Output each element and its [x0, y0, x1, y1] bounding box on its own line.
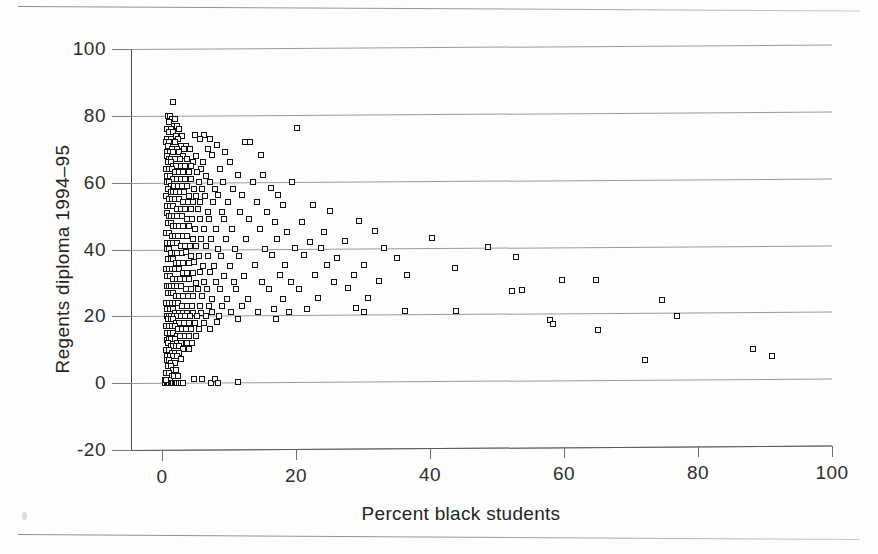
- data-point: [593, 277, 599, 283]
- data-point: [199, 186, 205, 192]
- data-point: [345, 285, 351, 291]
- data-point: [196, 179, 202, 185]
- data-point: [205, 253, 211, 259]
- data-point: [288, 279, 294, 285]
- data-point: [173, 367, 179, 373]
- data-point: [232, 246, 238, 252]
- data-point: [559, 277, 565, 283]
- data-point: [750, 346, 756, 352]
- data-point: [190, 236, 196, 242]
- data-point: [187, 146, 193, 152]
- data-point: [207, 269, 213, 275]
- data-point: [394, 255, 400, 261]
- data-point: [188, 176, 194, 182]
- data-point: [235, 316, 241, 322]
- data-point: [203, 243, 209, 249]
- data-point: [214, 319, 220, 325]
- data-point: [361, 262, 367, 268]
- data-point: [452, 265, 458, 271]
- data-point: [243, 236, 249, 242]
- data-point: [659, 297, 665, 303]
- data-point: [280, 296, 286, 302]
- data-point: [172, 116, 178, 122]
- data-point: [356, 218, 362, 224]
- data-point: [186, 169, 192, 175]
- data-point: [201, 279, 207, 285]
- data-point: [231, 279, 237, 285]
- data-point: [254, 199, 260, 205]
- data-point: [201, 320, 207, 326]
- data-point: [163, 377, 169, 383]
- data-point: [250, 179, 256, 185]
- data-point: [193, 333, 199, 339]
- data-point: [246, 216, 252, 222]
- data-point: [193, 243, 199, 249]
- data-point: [312, 272, 318, 278]
- data-point: [289, 179, 295, 185]
- data-point: [212, 186, 218, 192]
- data-point: [252, 262, 258, 268]
- data-point: [236, 253, 242, 259]
- data-point: [217, 286, 223, 292]
- data-point: [207, 326, 213, 332]
- figure-container: -20020406080100 020406080100 Regents dip…: [0, 0, 878, 554]
- data-point: [272, 219, 278, 225]
- data-point: [280, 202, 286, 208]
- data-point: [324, 262, 330, 268]
- data-point: [284, 229, 290, 235]
- data-point: [365, 295, 371, 301]
- data-point: [220, 179, 226, 185]
- data-point: [595, 327, 601, 333]
- data-point: [642, 357, 648, 363]
- data-point: [301, 252, 307, 258]
- data-point: [361, 309, 367, 315]
- data-point: [292, 245, 298, 251]
- data-point: [188, 286, 194, 292]
- data-point: [241, 273, 247, 279]
- data-point: [190, 199, 196, 205]
- data-point: [196, 253, 202, 259]
- data-point: [331, 279, 337, 285]
- data-point: [204, 286, 210, 292]
- data-point: [222, 149, 228, 155]
- data-point: [209, 309, 215, 315]
- x-axis-title: Percent black students: [0, 503, 878, 525]
- data-point: [513, 254, 519, 260]
- data-point: [191, 376, 197, 382]
- data-point: [208, 236, 214, 242]
- data-point: [404, 272, 410, 278]
- data-point: [245, 296, 251, 302]
- data-point: [247, 139, 253, 145]
- data-point: [258, 152, 264, 158]
- data-point: [189, 340, 195, 346]
- data-point: [271, 306, 277, 312]
- data-point: [310, 202, 316, 208]
- data-point: [199, 293, 205, 299]
- data-point: [209, 296, 215, 302]
- data-point: [189, 303, 195, 309]
- data-point: [224, 296, 230, 302]
- data-point: [221, 216, 227, 222]
- data-point: [213, 279, 219, 285]
- data-point: [196, 326, 202, 332]
- data-point: [214, 142, 220, 148]
- data-point: [218, 253, 224, 259]
- data-point: [219, 303, 225, 309]
- data-point: [228, 309, 234, 315]
- data-point: [188, 163, 194, 169]
- data-point: [235, 379, 241, 385]
- data-point: [199, 376, 205, 382]
- data-point: [177, 156, 183, 162]
- data-point: [197, 216, 203, 222]
- data-point: [273, 316, 279, 322]
- data-point: [485, 244, 491, 250]
- y-axis-title: Regents diploma 1994–95: [52, 104, 74, 414]
- data-point: [190, 270, 196, 276]
- data-point: [260, 172, 266, 178]
- data-point: [509, 288, 515, 294]
- data-point: [229, 226, 235, 232]
- data-point: [429, 235, 435, 241]
- data-point: [277, 272, 283, 278]
- data-point: [353, 305, 359, 311]
- data-point: [198, 236, 204, 242]
